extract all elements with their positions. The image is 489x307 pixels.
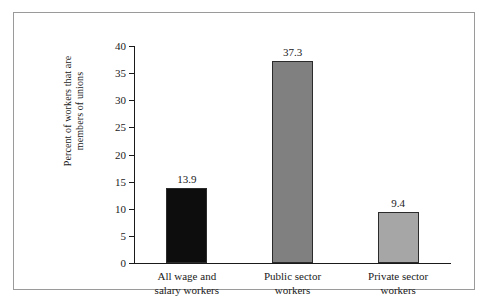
y-tick-mark bbox=[129, 182, 134, 183]
y-tick-label: 40 bbox=[115, 40, 126, 52]
x-category-label-line: workers bbox=[368, 283, 428, 297]
y-tick-label: 35 bbox=[115, 67, 126, 79]
y-tick-label: 20 bbox=[115, 149, 126, 161]
y-tick-mark bbox=[129, 236, 134, 237]
bar-value-label: 37.3 bbox=[283, 46, 302, 58]
x-category-label-line: Public sector bbox=[264, 269, 321, 283]
y-tick-label: 5 bbox=[121, 230, 127, 242]
y-tick-mark bbox=[129, 209, 134, 210]
y-tick-mark bbox=[129, 100, 134, 101]
x-category-label: Private sectorworkers bbox=[368, 269, 428, 297]
bar-value-label: 13.9 bbox=[177, 173, 196, 185]
x-category-label: All wage andsalary workers bbox=[155, 269, 219, 297]
y-tick-label: 30 bbox=[115, 94, 126, 106]
x-category-label-line: salary workers bbox=[155, 283, 219, 297]
y-axis-line bbox=[134, 46, 135, 263]
x-axis-line bbox=[134, 263, 451, 264]
y-tick-mark bbox=[129, 73, 134, 74]
y-tick-mark bbox=[129, 127, 134, 128]
plot-area: 0510152025303540 13.937.39.4 All wage an… bbox=[134, 46, 451, 263]
y-axis-title: Percent of workers that are members of u… bbox=[62, 11, 86, 211]
figure-frame: Percent of workers that are members of u… bbox=[13, 12, 475, 290]
bar bbox=[166, 188, 207, 263]
bar bbox=[378, 212, 419, 263]
y-tick-label: 0 bbox=[121, 257, 127, 269]
y-tick-label: 10 bbox=[115, 203, 126, 215]
y-axis-title-line-2: members of unions bbox=[74, 11, 86, 211]
x-category-label-line: All wage and bbox=[155, 269, 219, 283]
bar-value-label: 9.4 bbox=[391, 197, 405, 209]
y-axis-title-line-1: Percent of workers that are bbox=[62, 11, 74, 211]
y-tick-mark bbox=[129, 263, 134, 264]
y-tick-label: 25 bbox=[115, 121, 126, 133]
y-tick-mark bbox=[129, 46, 134, 47]
x-category-label-line: workers bbox=[264, 283, 321, 297]
y-tick-label: 15 bbox=[115, 176, 126, 188]
bar bbox=[272, 61, 313, 263]
y-tick-mark bbox=[129, 155, 134, 156]
figure-canvas: Percent of workers that are members of u… bbox=[0, 0, 489, 307]
x-category-label: Public sectorworkers bbox=[264, 269, 321, 297]
x-category-label-line: Private sector bbox=[368, 269, 428, 283]
